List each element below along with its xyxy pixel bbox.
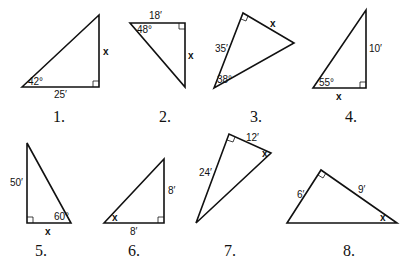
problem-number: 8.	[343, 242, 355, 259]
problem-4: 55° 10′ x 4.	[313, 10, 382, 125]
problem-5: 60° 50′ x 5.	[10, 143, 71, 259]
unknown-label: x	[103, 46, 109, 57]
right-angle-marker	[158, 217, 164, 223]
side-label: 18′	[149, 10, 162, 21]
problem-1: 42° 25′ x 1.	[22, 15, 109, 125]
angle-label: 48°	[137, 24, 152, 35]
side-label-top: 12′	[246, 132, 259, 143]
unknown-label: x	[270, 18, 276, 29]
problem-6: x 8′ 8′ 6.	[104, 159, 176, 259]
problem-number: 3.	[250, 108, 262, 125]
right-angle-marker	[360, 82, 366, 88]
problem-number: 1.	[53, 108, 65, 125]
right-angle-marker	[27, 217, 33, 223]
unknown-label: x	[188, 50, 194, 61]
angle-label: 60°	[54, 211, 69, 222]
problem-number: 4.	[345, 108, 357, 125]
side-label: 10′	[369, 43, 382, 54]
right-angle-marker	[179, 23, 185, 29]
angle-label: 42°	[28, 76, 43, 87]
side-label: 25′	[54, 89, 67, 100]
triangle-worksheet: 42° 25′ x 1. 48° 18′ x 2. 38° 35′ x 3. 5…	[0, 0, 410, 268]
right-angle-marker	[93, 81, 99, 87]
problem-8: 6′ 9′ x 8.	[287, 170, 397, 259]
problem-number: 2.	[159, 108, 171, 125]
unknown-label: x	[380, 212, 386, 223]
unknown-label: x	[262, 148, 268, 159]
side-label-left: 6′	[297, 189, 305, 200]
problem-3: 38° 35′ x 3.	[214, 13, 294, 125]
unknown-label: x	[112, 212, 118, 223]
unknown-label: x	[336, 91, 342, 102]
problem-number: 5.	[35, 242, 47, 259]
angle-label: 55°	[319, 77, 334, 88]
side-label-right: 8′	[168, 185, 176, 196]
angle-label: 38°	[217, 74, 232, 85]
triangle-7	[196, 134, 271, 223]
side-label-left: 24′	[199, 167, 212, 178]
problem-number: 6.	[128, 242, 140, 259]
side-label: 35′	[215, 43, 228, 54]
unknown-label: x	[45, 226, 51, 237]
problem-7: 24′ 12′ x 7.	[196, 132, 271, 259]
side-label-bottom: 8′	[130, 226, 138, 237]
side-label-right: 9′	[358, 184, 366, 195]
problem-2: 48° 18′ x 2.	[130, 10, 194, 125]
problem-number: 7.	[224, 242, 236, 259]
side-label: 50′	[10, 177, 23, 188]
